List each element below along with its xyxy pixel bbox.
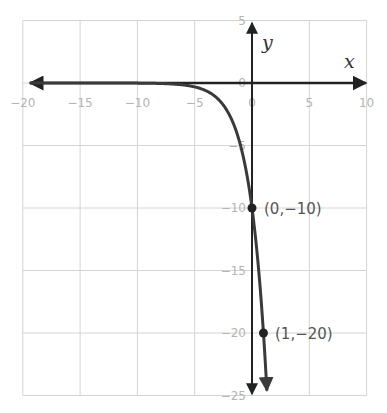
point-marker-a (248, 204, 257, 213)
x-tick-label: 10 (359, 96, 374, 110)
y-tick-label: −15 (221, 264, 246, 278)
x-tick-label: −20 (10, 96, 35, 110)
x-tick-label: 5 (305, 96, 313, 110)
y-axis-label: y (261, 31, 273, 53)
x-axis-label: x (344, 50, 355, 72)
curve (30, 83, 267, 391)
point-label-a: (0,−10) (264, 200, 322, 218)
x-tick-label: −5 (186, 96, 204, 110)
x-tick-label: −15 (67, 96, 92, 110)
point-label-b: (1,−20) (275, 325, 333, 343)
x-tick-label: −10 (125, 96, 150, 110)
y-tick-label: 5 (238, 14, 246, 28)
y-tick-label: −20 (221, 326, 246, 340)
point-marker-b (259, 329, 268, 338)
y-tick-label: −5 (228, 139, 246, 153)
exponential-graph: −20−15−10−5051050−5−10−15−20−25 x y (0,−… (0, 0, 387, 413)
y-tick-label: −25 (221, 389, 246, 403)
y-tick-label: −10 (221, 201, 246, 215)
